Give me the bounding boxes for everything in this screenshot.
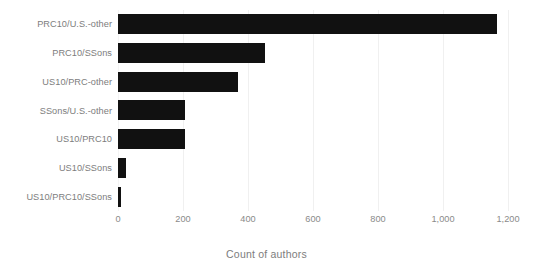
bar[interactable] xyxy=(118,129,185,149)
y-axis-labels: PRC10/U.S.-other PRC10/SSons US10/PRC-ot… xyxy=(0,10,112,211)
x-axis-tick-label: 400 xyxy=(240,214,255,224)
bar[interactable] xyxy=(118,100,185,120)
x-axis-tick-label: 200 xyxy=(175,214,190,224)
bar-row xyxy=(118,154,508,183)
y-axis-tick-label: US10/PRC10 xyxy=(0,134,112,144)
y-axis-tick-label: PRC10/U.S.-other xyxy=(0,19,112,29)
x-axis-tick-label: 800 xyxy=(370,214,385,224)
bar[interactable] xyxy=(118,14,497,34)
plot-area xyxy=(118,10,508,211)
bar-row xyxy=(118,125,508,154)
x-axis-tick-label: 1,000 xyxy=(431,214,454,224)
bar-row xyxy=(118,10,508,39)
bar-row xyxy=(118,39,508,68)
gridline xyxy=(508,10,509,211)
bar-series xyxy=(118,10,508,211)
x-axis-ticks: 0 200 400 600 800 1,000 1,200 xyxy=(118,214,508,230)
y-axis-tick-label: US10/SSons xyxy=(0,163,112,173)
bar-chart: PRC10/U.S.-other PRC10/SSons US10/PRC-ot… xyxy=(0,0,533,280)
y-axis-tick-label: SSons/U.S.-other xyxy=(0,106,112,116)
y-axis-tick-label: US10/PRC10/SSons xyxy=(0,192,112,202)
bar[interactable] xyxy=(118,158,126,178)
y-axis-tick-label: US10/PRC-other xyxy=(0,77,112,87)
x-axis-title: Count of authors xyxy=(0,248,533,260)
x-axis-tick-label: 0 xyxy=(115,214,120,224)
y-axis-tick-label: PRC10/SSons xyxy=(0,48,112,58)
x-axis-tick-label: 1,200 xyxy=(496,214,519,224)
bar[interactable] xyxy=(118,43,265,63)
bar-row xyxy=(118,182,508,211)
bar-row xyxy=(118,96,508,125)
bar[interactable] xyxy=(118,187,121,207)
bar[interactable] xyxy=(118,72,238,92)
x-axis-tick-label: 600 xyxy=(305,214,320,224)
bar-row xyxy=(118,67,508,96)
